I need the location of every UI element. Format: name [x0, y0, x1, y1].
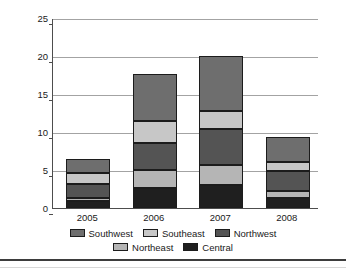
bar-segment-northeast	[133, 170, 177, 188]
bar-segment-southeast	[199, 111, 243, 129]
bar-segment-northwest	[199, 129, 243, 165]
y-tick-label: 20	[37, 52, 48, 62]
legend-item-central[interactable]: Central	[183, 242, 233, 253]
y-tick-label: 25	[37, 14, 48, 24]
bar-segment-central	[133, 188, 177, 208]
legend-label: Northeast	[132, 242, 173, 253]
bar-segment-southeast	[266, 162, 310, 171]
x-tick-label-2006: 2006	[126, 211, 182, 224]
legend-item-southwest[interactable]: Southwest	[70, 228, 133, 239]
footer-rule	[0, 259, 346, 261]
y-tick-label: 0	[43, 204, 48, 214]
bar-segment-southeast	[133, 121, 177, 142]
bar-segment-southwest	[66, 159, 110, 173]
legend-label: Southwest	[89, 228, 133, 239]
bar-2007	[199, 56, 243, 208]
bar-segment-northeast	[66, 198, 110, 201]
bar-segment-northwest	[266, 171, 310, 191]
chart-legend: SouthwestSoutheastNorthwest NortheastCen…	[0, 226, 346, 254]
y-tick-label: 5	[43, 166, 48, 176]
plot-area	[52, 19, 318, 209]
x-tick-label-2005: 2005	[59, 211, 115, 224]
footer-rule-secondary	[0, 267, 346, 268]
y-tick-label: 15	[37, 90, 48, 100]
y-tick-label: 10	[37, 128, 48, 138]
bar-segment-southeast	[66, 173, 110, 184]
chart-figure: Sales (In Millions) 0510152025 200520062…	[0, 0, 346, 270]
bar-segment-northwest	[133, 143, 177, 170]
legend-swatch-northwest	[215, 229, 230, 237]
bar-segment-southwest	[133, 74, 177, 121]
bar-segment-central	[266, 198, 310, 208]
legend-item-southeast[interactable]: Southeast	[143, 228, 205, 239]
bar-segment-northeast	[266, 191, 310, 199]
legend-label: Central	[202, 242, 233, 253]
legend-swatch-northeast	[113, 243, 128, 251]
legend-row-2: NortheastCentral	[0, 240, 346, 254]
legend-swatch-southeast	[143, 229, 158, 237]
x-axis-tick-labels: 2005200620072008	[52, 211, 318, 225]
bar-segment-southwest	[266, 137, 310, 161]
legend-item-northeast[interactable]: Northeast	[113, 242, 173, 253]
bar-segment-central	[66, 201, 110, 208]
bar-segment-northeast	[199, 165, 243, 186]
bar-segment-southwest	[199, 56, 243, 111]
y-axis-tick-labels: 0510152025	[26, 14, 48, 210]
legend-row-1: SouthwestSoutheastNorthwest	[0, 226, 346, 240]
legend-swatch-central	[183, 243, 198, 251]
bar-segment-central	[199, 185, 243, 208]
bar-group	[53, 19, 318, 208]
x-tick-label-2008: 2008	[259, 211, 315, 224]
bar-2006	[133, 74, 177, 208]
bar-2005	[66, 159, 110, 208]
legend-swatch-southwest	[70, 229, 85, 237]
legend-label: Northwest	[234, 228, 277, 239]
legend-item-northwest[interactable]: Northwest	[215, 228, 277, 239]
bar-segment-northwest	[66, 184, 110, 198]
legend-label: Southeast	[162, 228, 205, 239]
x-tick-label-2007: 2007	[192, 211, 248, 224]
bar-2008	[266, 137, 310, 208]
